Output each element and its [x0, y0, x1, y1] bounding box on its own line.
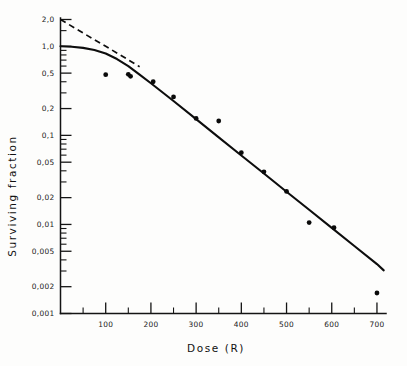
y-axis-ticks: 2,01,00,50,20,10,050,020,010,0050,0020,0… [32, 15, 72, 318]
x-tick-label: 200 [143, 320, 158, 329]
data-point [375, 291, 380, 296]
x-tick-label: 300 [189, 320, 204, 329]
survival-curve-line [61, 46, 384, 270]
y-tick-label: 1,0 [42, 42, 55, 51]
x-tick-label: 600 [324, 320, 339, 329]
data-point [307, 220, 312, 225]
survival-curve-figure: 2,01,00,50,20,10,050,020,010,0050,0020,0… [0, 0, 407, 366]
data-point [262, 169, 267, 174]
y-tick-label: 0,05 [37, 158, 55, 167]
x-axis-title: Dose (R) [187, 342, 245, 354]
extrapolation-dashed-line [61, 20, 140, 67]
y-tick-label: 0,2 [42, 104, 55, 113]
y-axis-title: Surviving fraction [6, 135, 18, 257]
data-point [194, 116, 199, 121]
data-point [332, 225, 337, 230]
x-tick-label: 400 [234, 320, 249, 329]
x-tick-label: 100 [98, 320, 113, 329]
y-tick-label: 0,02 [37, 193, 55, 202]
x-tick-label: 500 [279, 320, 294, 329]
x-tick-label: 700 [369, 320, 384, 329]
data-point [239, 150, 244, 155]
y-tick-label: 0,005 [32, 247, 55, 256]
x-axis-ticks: 100200300400500600700 [83, 303, 384, 329]
data-point-group [103, 72, 379, 295]
data-point [151, 79, 156, 84]
data-point [216, 119, 221, 124]
data-point [171, 95, 176, 100]
chart-canvas: 2,01,00,50,20,10,050,020,010,0050,0020,0… [0, 0, 407, 366]
data-point [284, 189, 289, 194]
data-point [103, 72, 108, 77]
y-tick-label: 0,5 [42, 69, 55, 78]
data-point [128, 74, 133, 79]
y-tick-label: 0,01 [37, 220, 55, 229]
y-tick-label: 0,002 [32, 282, 55, 291]
y-tick-label: 0,1 [42, 131, 55, 140]
y-tick-label: 0,001 [32, 309, 55, 318]
y-tick-label: 2,0 [42, 15, 55, 24]
